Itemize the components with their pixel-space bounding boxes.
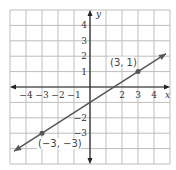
x-axis-label: x xyxy=(165,90,170,100)
line-arrow-left-icon xyxy=(14,145,22,151)
data-point xyxy=(136,69,141,74)
x-axis-right-arrow-icon xyxy=(164,85,170,90)
y-axis-up-arrow-icon xyxy=(88,10,93,16)
y-tick-label: 1 xyxy=(81,67,87,77)
y-tick-label: 3 xyxy=(81,36,87,46)
coordinate-plane: yx−4−3−2−12344321−2−3(3, 1)(−3, −3) xyxy=(0,0,176,170)
point-label: (3, 1) xyxy=(110,57,137,68)
y-tick-label: 2 xyxy=(81,51,87,61)
line-arrow-right-icon xyxy=(158,54,166,60)
x-tick-label: 3 xyxy=(135,90,141,100)
y-tick-label: 4 xyxy=(81,20,87,30)
y-tick-label: −2 xyxy=(74,113,87,123)
y-axis-down-arrow-icon xyxy=(88,158,93,164)
x-tick-label: −1 xyxy=(67,90,80,100)
point-label: (−3, −3) xyxy=(38,138,82,149)
data-point xyxy=(40,131,45,136)
y-axis-label: y xyxy=(95,9,102,19)
x-axis-left-arrow-icon xyxy=(10,85,16,90)
x-tick-label: −2 xyxy=(51,90,64,100)
y-tick-label: −3 xyxy=(74,128,88,138)
x-tick-label: 2 xyxy=(119,90,125,100)
x-tick-label: −4 xyxy=(19,90,33,100)
x-tick-label: −3 xyxy=(35,90,49,100)
x-tick-label: 4 xyxy=(151,90,157,100)
